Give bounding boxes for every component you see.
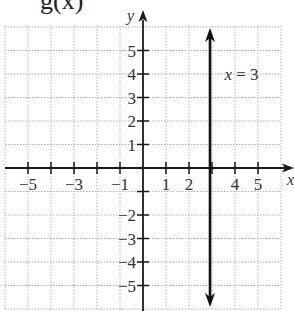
x-tick-label: −5 (19, 175, 37, 194)
y-tick-label: 4 (128, 65, 137, 84)
x-tick-label: 5 (254, 175, 263, 194)
line-label: x = 3 (223, 65, 258, 84)
x-tick-label: 4 (231, 175, 240, 194)
x-tick-label: −1 (111, 175, 129, 194)
y-tick-label: −4 (118, 253, 137, 272)
x-tick-label: 1 (162, 175, 171, 194)
y-axis-label: y (125, 7, 135, 25)
y-tick-label: −2 (118, 206, 136, 225)
y-tick-label: 1 (128, 136, 137, 155)
x-tick-label: 2 (185, 175, 194, 194)
x-axis-label: x (286, 171, 294, 188)
annotation-label: x = 3 (223, 65, 258, 84)
coordinate-graph: xy−5−3−1124554321−2−3−4−5 x = 3 (0, 0, 294, 311)
y-tick-label: 3 (128, 89, 137, 108)
y-tick-label: 2 (128, 112, 137, 131)
y-tick-label: −5 (118, 277, 136, 296)
y-tick-label: 5 (128, 42, 137, 61)
axes (5, 10, 294, 311)
x-tick-label: −3 (65, 175, 83, 194)
y-tick-label: −3 (118, 230, 136, 249)
